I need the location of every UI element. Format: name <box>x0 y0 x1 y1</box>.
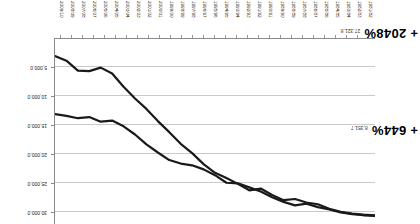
x-tick: 1985/86 <box>320 0 331 38</box>
x-tick-mark <box>137 35 138 38</box>
x-axis: 1981/821982/831983/841984/851985/861986/… <box>55 0 375 38</box>
y-tick-label: 15,000.0 <box>28 123 47 129</box>
x-tick-label: 2001/02 <box>147 1 152 34</box>
y-tick-label: 20,000.0 <box>28 152 47 158</box>
x-tick: 2001/02 <box>143 0 154 38</box>
x-tick-mark <box>203 35 204 38</box>
x-tick-label: 1995/96 <box>213 1 218 34</box>
y-tick-label: 30,000.0 <box>28 210 47 216</box>
x-tick-mark <box>126 35 127 38</box>
x-tick: 1988/89 <box>287 0 298 38</box>
x-tick-label: 1999/00 <box>169 1 174 34</box>
x-tick: 1994/95 <box>221 0 232 38</box>
x-tick-mark <box>82 35 83 38</box>
x-tick-mark <box>335 35 336 38</box>
x-tick-mark <box>181 35 182 38</box>
x-tick-mark <box>258 35 259 38</box>
x-tick-mark <box>170 35 171 38</box>
x-tick: 1989/90 <box>276 0 287 38</box>
y-tick-mark <box>51 96 55 97</box>
plot-area <box>55 38 375 224</box>
x-tick-label: 2000/01 <box>158 1 163 34</box>
x-tick-label: 1996/97 <box>202 1 207 34</box>
x-tick: 2008/09 <box>66 0 77 38</box>
x-tick: 2009/10 <box>55 0 66 38</box>
x-tick-mark <box>214 35 215 38</box>
y-axis: 5,000.010,000.015,000.020,000.025,000.03… <box>0 38 55 224</box>
x-tick-label: 1984/85 <box>334 1 339 34</box>
x-tick-mark <box>93 35 94 38</box>
x-tick: 1998/99 <box>176 0 187 38</box>
x-tick-label: 2008/09 <box>69 1 74 34</box>
y-tick-label: 10,000.0 <box>28 94 47 100</box>
x-tick-mark <box>324 35 325 38</box>
y-tick-mark <box>51 154 55 155</box>
annotation-series-b: + 2048% 27,321.8 <box>341 26 418 41</box>
x-tick-mark <box>247 35 248 38</box>
x-tick: 1987/88 <box>298 0 309 38</box>
x-tick: 1995/96 <box>210 0 221 38</box>
x-tick: 1999/00 <box>165 0 176 38</box>
x-tick: 1990/91 <box>265 0 276 38</box>
x-tick-label: 1988/89 <box>290 1 295 34</box>
annotation-series-b-percent: + 2048% <box>364 26 418 41</box>
x-tick-label: 2004/05 <box>113 1 118 34</box>
x-tick: 2006/07 <box>88 0 99 38</box>
x-tick-mark <box>280 35 281 38</box>
x-tick-label: 1993/94 <box>235 1 240 34</box>
x-tick-mark <box>269 35 270 38</box>
x-tick: 2007/08 <box>77 0 88 38</box>
x-tick-mark <box>60 35 61 38</box>
x-tick-mark <box>71 35 72 38</box>
x-tick: 1996/97 <box>199 0 210 38</box>
x-tick-mark <box>115 35 116 38</box>
y-tick-mark <box>51 212 55 213</box>
x-tick: 1993/94 <box>232 0 243 38</box>
x-tick-label: 1985/86 <box>323 1 328 34</box>
x-tick-mark <box>148 35 149 38</box>
x-tick-mark <box>159 35 160 38</box>
series-layer <box>55 38 375 224</box>
x-tick-label: 2005/06 <box>102 1 107 34</box>
x-tick-mark <box>313 35 314 38</box>
x-tick-label: 1992/93 <box>246 1 251 34</box>
x-tick: 2004/05 <box>110 0 121 38</box>
annotation-series-a-percent: + 644% <box>372 123 418 138</box>
x-tick-mark <box>291 35 292 38</box>
x-tick-label: 2006/07 <box>91 1 96 34</box>
x-tick-mark <box>192 35 193 38</box>
y-tick-mark <box>51 183 55 184</box>
x-tick-label: 2003/04 <box>125 1 130 34</box>
x-tick-label: 1994/95 <box>224 1 229 34</box>
annotation-series-b-value: 27,321.8 <box>341 28 360 34</box>
x-tick-mark <box>236 35 237 38</box>
series-a-line <box>55 114 375 216</box>
x-tick-label: 1986/87 <box>312 1 317 34</box>
x-tick-label: 2007/08 <box>80 1 85 34</box>
x-tick-label: 2002/03 <box>136 1 141 34</box>
x-tick: 1991/92 <box>254 0 265 38</box>
x-tick-label: 2009/10 <box>58 1 63 34</box>
annotation-series-a: + 644% 8,351.7 <box>351 123 418 138</box>
x-tick-label: 1997/98 <box>191 1 196 34</box>
series-b-line <box>55 56 375 215</box>
x-tick: 1992/93 <box>243 0 254 38</box>
x-tick: 2005/06 <box>99 0 110 38</box>
x-tick-label: 1987/88 <box>301 1 306 34</box>
x-tick: 1986/87 <box>309 0 320 38</box>
line-chart-svg <box>55 38 375 224</box>
y-tick-mark <box>51 67 55 68</box>
x-tick-mark <box>104 35 105 38</box>
x-tick-label: 1991/92 <box>257 1 262 34</box>
x-tick-label: 1998/99 <box>180 1 185 34</box>
x-tick: 2000/01 <box>154 0 165 38</box>
x-tick-label: 1989/90 <box>279 1 284 34</box>
x-tick-mark <box>302 35 303 38</box>
y-tick-mark <box>51 125 55 126</box>
annotation-series-a-value: 8,351.7 <box>351 125 368 131</box>
chart-figure: 1981/821982/831983/841984/851985/861986/… <box>0 0 420 224</box>
x-tick: 2002/03 <box>132 0 143 38</box>
y-tick-label: 5,000.0 <box>30 65 47 71</box>
y-tick-label: 25,000.0 <box>28 181 47 187</box>
x-tick: 1997/98 <box>187 0 198 38</box>
